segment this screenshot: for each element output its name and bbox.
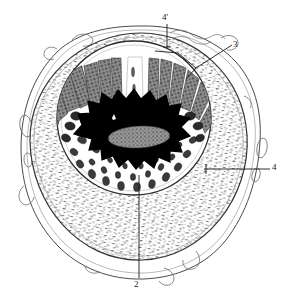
label-4-prime: 4': [162, 13, 168, 22]
figure-root: 4' 3 4 2: [0, 0, 284, 295]
cross-section-illustration: [0, 0, 284, 295]
label-3: 3: [233, 40, 238, 49]
label-4: 4: [272, 163, 277, 172]
label-2: 2: [134, 280, 139, 289]
